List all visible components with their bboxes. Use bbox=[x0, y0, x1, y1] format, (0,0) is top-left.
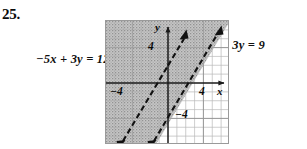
y-tick-label-negative-4: −4 bbox=[175, 109, 188, 121]
x-axis-label: x bbox=[217, 86, 223, 97]
y-axis-label: y bbox=[155, 22, 160, 33]
coordinate-graph bbox=[105, 20, 229, 144]
x-tick-label-4: 4 bbox=[199, 86, 205, 98]
x-tick-label-negative-4: −4 bbox=[110, 86, 123, 98]
equation-label-left: −5x + 3y = 12 bbox=[36, 52, 110, 67]
graph-canvas bbox=[106, 21, 229, 144]
problem-number: 25. bbox=[2, 6, 20, 23]
y-tick-label-4: 4 bbox=[148, 41, 154, 53]
